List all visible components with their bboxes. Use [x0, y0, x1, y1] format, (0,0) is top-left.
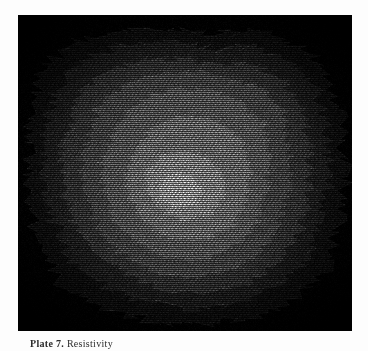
resistivity-contour-plot	[18, 15, 352, 331]
plate-caption: Plate 7. Resistivity	[30, 338, 350, 350]
plate-caption-label: Plate 7.	[30, 338, 64, 349]
plate-image-panel	[18, 15, 352, 331]
figure-page: Plate 7. Resistivity	[0, 0, 368, 351]
plate-caption-text: Resistivity	[67, 338, 113, 349]
